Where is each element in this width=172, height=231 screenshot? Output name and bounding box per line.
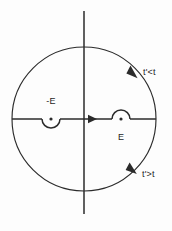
real-axis-direction-arrow-icon bbox=[88, 115, 97, 123]
contour-diagram-svg: -E E t'<t t'>t bbox=[0, 0, 172, 231]
pole-label-negative-e: -E bbox=[46, 96, 55, 106]
pole-label-positive-e: E bbox=[118, 132, 124, 142]
upper-arc-direction-arrow-icon bbox=[126, 66, 137, 79]
pole-dot-negative-e bbox=[49, 117, 52, 120]
pole-dot-positive-e bbox=[119, 117, 122, 120]
arc-label-lower: t'>t bbox=[142, 169, 155, 179]
arc-label-upper: t'<t bbox=[143, 67, 156, 77]
contour-diagram-figure: -E E t'<t t'>t bbox=[0, 0, 172, 231]
lower-arc-direction-arrow-icon bbox=[126, 162, 137, 174]
